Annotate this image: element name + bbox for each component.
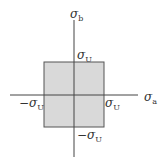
vertical-axis-label: σb bbox=[70, 8, 83, 23]
label-top-sigma-u: σU bbox=[77, 49, 92, 64]
label-right-sigma-u: σU bbox=[105, 97, 120, 112]
horizontal-axis-label: σa bbox=[144, 91, 157, 106]
failure-envelope-diagram: σb σa σU σU −σU −σU bbox=[0, 0, 168, 163]
label-left-neg-sigma-u: −σU bbox=[19, 97, 44, 112]
label-bottom-neg-sigma-u: −σU bbox=[77, 129, 102, 144]
